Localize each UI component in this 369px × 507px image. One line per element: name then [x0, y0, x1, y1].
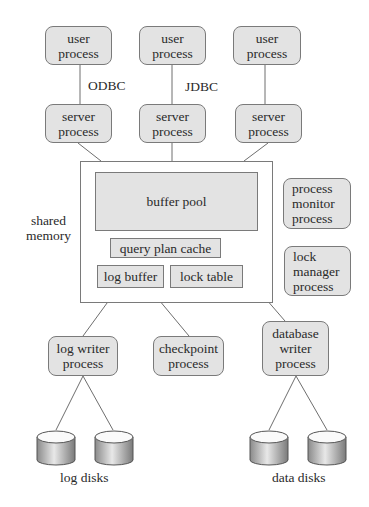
checkpoint-process: checkpoint process: [153, 336, 224, 376]
shared-memory-label: shared memory: [26, 213, 71, 243]
buffer-pool: buffer pool: [95, 172, 258, 231]
process-monitor-process: process monitor process: [283, 178, 351, 229]
database-writer-process: database writer process: [262, 321, 329, 376]
log-disks-label: log disks: [60, 470, 108, 485]
log-buffer: log buffer: [97, 265, 164, 288]
log-disk-icon: [37, 431, 75, 465]
odbc-label: ODBC: [88, 78, 126, 93]
server-process-1: server process: [45, 104, 112, 143]
log-writer-process: log writer process: [48, 336, 118, 376]
server-process-2: server process: [139, 104, 206, 143]
log-disk-icon: [95, 431, 133, 465]
user-process-1: user process: [45, 26, 112, 65]
lock-manager-process: lock manager process: [284, 246, 351, 296]
user-process-2: user process: [139, 26, 206, 65]
user-process-3: user process: [233, 26, 301, 65]
query-plan-cache: query plan cache: [110, 238, 221, 258]
jdbc-label: JDBC: [185, 79, 218, 94]
data-disk-icon: [308, 431, 346, 465]
data-disks-label: data disks: [272, 470, 326, 485]
server-process-3: server process: [235, 104, 302, 143]
lock-table: lock table: [170, 265, 243, 288]
data-disk-icon: [250, 431, 288, 465]
